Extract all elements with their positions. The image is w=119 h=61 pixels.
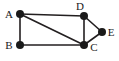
graph-edge-a-d	[20, 14, 84, 16]
graph-node-label-a: A	[5, 9, 13, 20]
graph-node-label-c: C	[90, 42, 97, 53]
graph-node-c	[80, 41, 88, 49]
graph-node-d	[80, 12, 88, 20]
graph-diagram: ABCDE	[0, 0, 119, 61]
graph-node-label-e: E	[108, 27, 115, 38]
graph-node-a	[16, 10, 24, 18]
graph-node-label-b: B	[5, 40, 12, 51]
graph-node-b	[16, 41, 24, 49]
graph-canvas	[0, 0, 119, 61]
graph-node-e	[98, 28, 106, 36]
graph-node-label-d: D	[76, 1, 84, 12]
graph-edge-a-c	[20, 14, 84, 45]
